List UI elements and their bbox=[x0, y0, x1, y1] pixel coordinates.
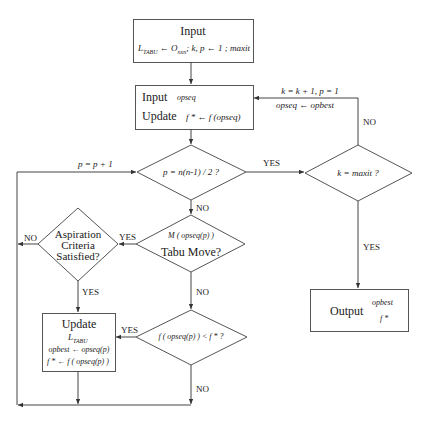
output-box-title: Output bbox=[330, 305, 363, 317]
init-update-label: Update bbox=[142, 110, 177, 122]
update-box-line1: LTABU bbox=[68, 333, 88, 344]
input-box-title: Input bbox=[180, 25, 205, 37]
decision-p-yes-label: YES bbox=[263, 159, 280, 168]
decision-f-no-label: NO bbox=[196, 385, 209, 394]
input-box-rest: ; k, p ← 1 ; maxit bbox=[186, 43, 250, 53]
decision-k-no-label: NO bbox=[363, 118, 376, 127]
decision-aspiration-line3: Satisfied? bbox=[56, 251, 99, 262]
decision-p-no-label: NO bbox=[196, 204, 209, 213]
input-box-line: LTABU ← Onxn; k, p ← 1 ; maxit bbox=[138, 44, 250, 55]
decision-k-text: k = maxit ? bbox=[337, 169, 378, 178]
decision-tabu-no-label: NO bbox=[196, 288, 209, 297]
update-box-line3: f * ← f ( opseq(p) ) bbox=[47, 358, 109, 366]
init-input-value: opseq bbox=[177, 94, 196, 102]
update-l-subscript: TABU bbox=[73, 338, 88, 344]
loop-back-line1: k = k + 1, p = 1 bbox=[281, 87, 339, 96]
update-box-line2: opbest ← opseq(p) bbox=[49, 346, 110, 354]
decision-aspiration-yes-label: YES bbox=[82, 288, 99, 297]
l-tabu-subscript: TABU bbox=[143, 49, 158, 55]
output-box-value2: f * bbox=[380, 315, 388, 323]
assign-arrow-icon: ← bbox=[160, 43, 169, 53]
update-box-title: Update bbox=[62, 318, 97, 330]
init-update-value: f * ← f (opseq) bbox=[186, 113, 241, 122]
decision-tabu-line1: M ( opseq(p) ) bbox=[168, 232, 214, 240]
decision-tabu-yes-label: YES bbox=[119, 233, 136, 242]
decision-k-yes-label: YES bbox=[363, 243, 380, 252]
init-input-label: Input bbox=[142, 91, 167, 103]
decision-p-text: p = n(n-1) / 2 ? bbox=[163, 168, 219, 177]
edge-left-loop-p bbox=[17, 172, 136, 405]
decision-aspiration-no-label: NO bbox=[24, 234, 37, 243]
decision-tabu-line2: Tabu Move? bbox=[161, 246, 221, 258]
increment-p-label: p = p + 1 bbox=[78, 160, 113, 169]
o-subscript: nxn bbox=[178, 49, 187, 55]
decision-f-text: f ( opseq(p) ) < f * ? bbox=[158, 333, 223, 341]
loop-back-line2: opseq ← opbest bbox=[276, 101, 334, 110]
decision-f-yes-label: YES bbox=[121, 326, 138, 335]
output-box-value1: opbest bbox=[372, 299, 393, 307]
decision-tabu-diamond bbox=[136, 215, 245, 272]
